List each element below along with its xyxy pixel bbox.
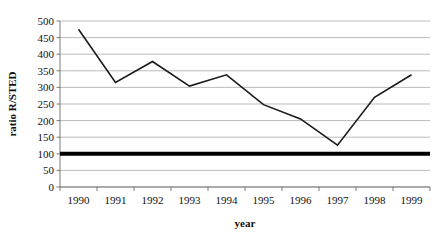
y-tick-label: 250 <box>38 98 55 110</box>
x-tick-label: 1999 <box>401 194 424 206</box>
y-tick-label: 450 <box>38 32 55 44</box>
y-axis-title: ratio R/STED <box>6 71 18 136</box>
y-tick-label: 0 <box>49 181 55 193</box>
x-tick-label: 1996 <box>290 194 313 206</box>
y-tick-label: 300 <box>38 81 55 93</box>
line-chart: 0501001502002503003504004505001990199119… <box>0 0 443 242</box>
x-tick-label: 1992 <box>142 194 164 206</box>
x-tick-label: 1995 <box>253 194 276 206</box>
x-axis-title: year <box>235 217 256 229</box>
x-tick-label: 1998 <box>364 194 387 206</box>
y-tick-label: 500 <box>38 15 55 27</box>
x-tick-label: 1994 <box>216 194 239 206</box>
y-tick-label: 150 <box>38 131 55 143</box>
chart-container: 0501001502002503003504004505001990199119… <box>0 0 443 242</box>
x-tick-label: 1997 <box>327 194 350 206</box>
x-tick-label: 1993 <box>179 194 202 206</box>
y-tick-label: 400 <box>38 48 55 60</box>
x-tick-label: 1990 <box>68 194 91 206</box>
x-tick-label: 1991 <box>105 194 127 206</box>
y-tick-label: 200 <box>38 115 55 127</box>
y-tick-label: 350 <box>38 65 55 77</box>
y-tick-label: 50 <box>43 164 55 176</box>
y-tick-label: 100 <box>38 148 55 160</box>
